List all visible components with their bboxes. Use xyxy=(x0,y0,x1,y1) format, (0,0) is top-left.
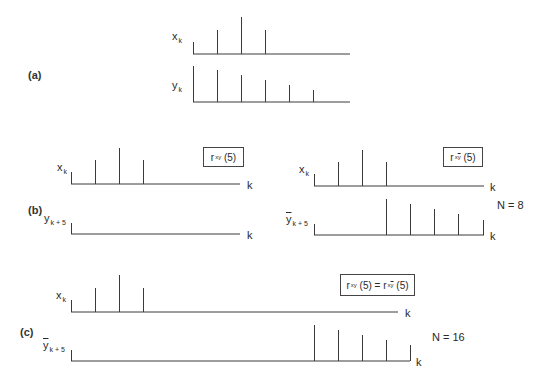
k-axis-label-c-bottom: k xyxy=(416,357,422,368)
y-symbol: y xyxy=(44,212,50,224)
n-label-b: N = 8 xyxy=(497,200,524,211)
ybar-k5-label-c: yk + 5 xyxy=(43,340,65,353)
y-subscript: k + 5 xyxy=(50,346,65,353)
rxy-equals-rxybar-box: rxy (5) = rxy (5) xyxy=(340,274,415,296)
r1-symbol: r xyxy=(346,280,349,291)
k-axis-label-b-right-bottom: k xyxy=(490,231,496,242)
x-subscript: k xyxy=(64,168,68,175)
r-subscript: xy xyxy=(455,154,461,160)
k-axis-label-c-top: k xyxy=(405,308,411,319)
panel-label-c: (c) xyxy=(20,327,33,338)
x-subscript: k xyxy=(306,170,310,177)
ybar-symbol: y xyxy=(43,339,49,351)
sub-ybar: y xyxy=(391,282,394,288)
yk-label-a: yk xyxy=(172,80,182,93)
stem-plots-canvas xyxy=(0,0,540,377)
y-subscript: k + 5 xyxy=(51,219,66,226)
panel-label-b: (b) xyxy=(28,205,42,216)
k-axis-label-b-left-top: k xyxy=(247,180,253,191)
k-axis-label-b-right-top: k xyxy=(490,182,496,193)
r-argument: (5) xyxy=(224,152,236,163)
y-subscript: k xyxy=(179,86,183,93)
r1-argument: (5) xyxy=(360,280,372,291)
sub-ybar: y xyxy=(458,154,461,160)
r-argument: (5) xyxy=(463,152,475,163)
n-label-c: N = 16 xyxy=(432,332,465,343)
panel-label-a: (a) xyxy=(28,70,41,81)
r-symbol: r xyxy=(211,152,214,163)
ybar-k5-label-b-right: yk + 5 xyxy=(286,214,308,227)
yk5-label-b-left: yk + 5 xyxy=(44,213,66,226)
rxy-box: rxy (5) xyxy=(203,147,244,167)
x-symbol: x xyxy=(172,30,178,42)
rxybar-box: rxy (5) xyxy=(443,147,483,167)
r2-subscript: xy xyxy=(388,282,394,288)
y-symbol: y xyxy=(172,79,178,91)
x-symbol: x xyxy=(56,289,62,301)
r1-subscript: xy xyxy=(351,282,357,288)
x-symbol: x xyxy=(57,161,63,173)
ybar-symbol: y xyxy=(286,213,292,225)
xk-label-b-left: xk xyxy=(57,162,67,175)
x-subscript: k xyxy=(179,37,183,44)
xk-label-a: xk xyxy=(172,31,182,44)
k-axis-label-b-left-bottom: k xyxy=(247,230,253,241)
r-subscript: xy xyxy=(215,154,221,160)
r-symbol: r xyxy=(450,152,453,163)
equals-sign: = xyxy=(372,280,383,291)
x-subscript: k xyxy=(63,296,67,303)
xk-label-b-right: xk xyxy=(299,164,309,177)
x-symbol: x xyxy=(299,163,305,175)
r2-argument: (5) xyxy=(396,280,408,291)
xk-label-c: xk xyxy=(56,290,66,303)
y-subscript: k + 5 xyxy=(293,220,308,227)
r2-symbol: r xyxy=(383,280,386,291)
